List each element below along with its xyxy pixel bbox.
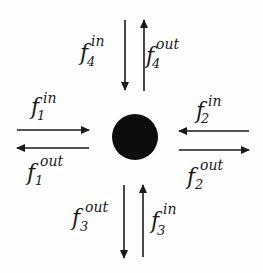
flow-label-subscript: 2: [194, 177, 203, 192]
flow-f1-out: fout1: [17, 148, 89, 188]
flow-label-subscript: 3: [157, 223, 165, 238]
flow-label-superscript: in: [163, 201, 177, 217]
flow-f1-in: fin1: [17, 90, 89, 130]
flow-f2-out: fout2: [179, 150, 249, 192]
flow-label-subscript: 4: [151, 56, 160, 71]
flow-label-subscript: 4: [86, 54, 95, 69]
flow-f4-in: fin4: [78, 20, 125, 90]
flow-label-subscript: 3: [80, 219, 88, 234]
diagram-svg: fin4fout4fin1fout1fin2fout2fout3fin3: [0, 0, 263, 273]
flow-label-superscript: in: [91, 33, 105, 49]
flow-label-superscript: out: [85, 199, 108, 215]
flow-label-subscript: 1: [35, 173, 43, 188]
flow-label-superscript: in: [43, 90, 57, 106]
flow-label-superscript: out: [40, 153, 63, 169]
flow-f3-in: fin3: [143, 185, 177, 257]
flow-f2-in: fin2: [179, 93, 249, 131]
flow-diagram: fin4fout4fin1fout1fin2fout2fout3fin3: [0, 0, 263, 273]
flow-label-superscript: in: [208, 93, 222, 109]
flow-label-superscript: out: [200, 157, 223, 173]
node-circle: [112, 114, 158, 160]
flow-label-subscript: 1: [37, 108, 45, 123]
flow-label-superscript: out: [156, 36, 179, 52]
flow-f3-out: fout3: [70, 185, 124, 258]
flow-f4-out: fout4: [144, 20, 179, 91]
flow-label-subscript: 2: [200, 111, 209, 126]
